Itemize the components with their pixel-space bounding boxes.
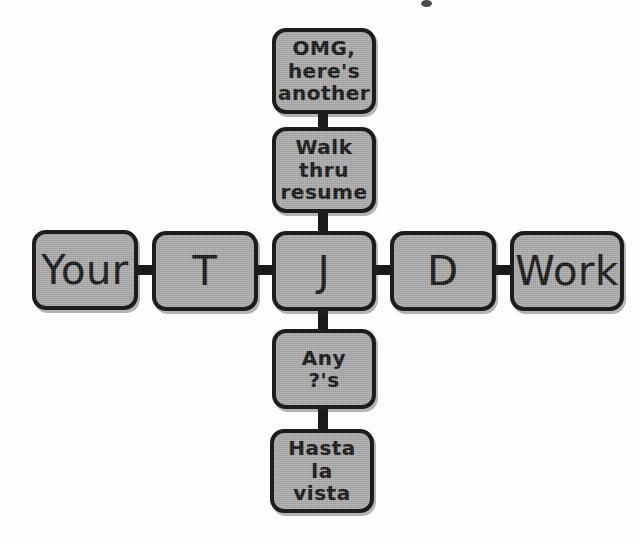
node-any[interactable]: Any ?'s [272, 329, 376, 409]
node-j[interactable]: J [272, 231, 376, 311]
node-work[interactable]: Work [510, 231, 624, 311]
node-hasta[interactable]: Hasta la vista [270, 429, 374, 513]
node-label-work: Work [511, 249, 622, 294]
node-omg[interactable]: OMG, here's another [272, 28, 376, 114]
node-label-walk: Walk thru resume [277, 136, 372, 203]
node-t[interactable]: T [152, 231, 258, 311]
artifact-scan-speck [421, 0, 432, 7]
node-walk[interactable]: Walk thru resume [272, 127, 376, 213]
node-label-any: Any ?'s [298, 347, 350, 392]
node-d[interactable]: D [390, 231, 496, 311]
node-label-omg: OMG, here's another [274, 37, 374, 104]
node-label-d: D [423, 249, 462, 294]
node-label-your: Your [37, 248, 132, 293]
diagram-canvas: OMG, here's anotherWalk thru resumeYourT… [0, 0, 640, 544]
node-label-hasta: Hasta la vista [274, 437, 370, 504]
node-label-j: J [314, 249, 334, 294]
node-label-t: T [189, 249, 222, 294]
node-your[interactable]: Your [32, 230, 138, 310]
